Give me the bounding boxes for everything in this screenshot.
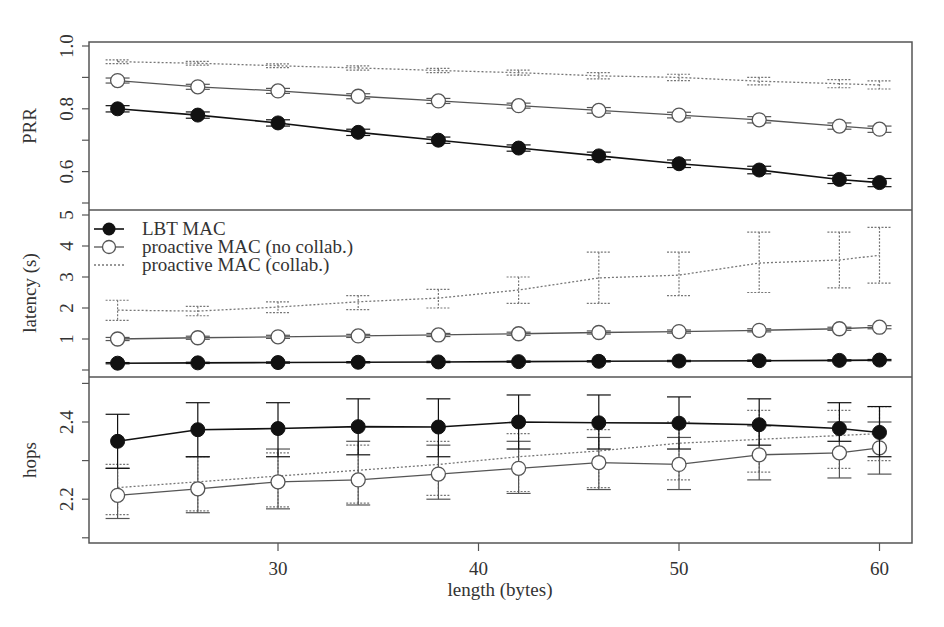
legend-label: proactive MAC (collab.): [142, 254, 329, 276]
series-lbt-mac: [106, 102, 892, 190]
marker-filled-circle: [832, 172, 846, 186]
marker-open-circle: [873, 320, 887, 334]
marker-filled-circle: [111, 434, 125, 448]
y-tick-label: 2: [56, 303, 77, 313]
x-tick-label: 60: [870, 558, 889, 579]
marker-filled-circle: [191, 423, 205, 437]
marker-open-circle: [752, 113, 766, 127]
marker-open-circle: [351, 473, 365, 487]
marker-open-circle: [752, 448, 766, 462]
marker-filled-circle: [111, 102, 125, 116]
marker-filled-circle: [351, 420, 365, 434]
marker-filled-circle: [512, 141, 526, 155]
marker-open-circle: [832, 119, 846, 133]
panel-hops: [106, 395, 892, 519]
x-tick-label: 40: [469, 558, 488, 579]
series-lbt-mac: [106, 353, 892, 370]
series-proactive-collab: [106, 60, 892, 89]
marker-filled-circle: [592, 149, 606, 163]
marker-open-circle: [191, 482, 205, 496]
y-axis-label-prr: PRR: [19, 108, 40, 144]
marker-open-circle: [351, 89, 365, 103]
legend-marker-open-circle: [103, 241, 116, 254]
x-tick-label: 30: [269, 558, 288, 579]
marker-open-circle: [672, 108, 686, 122]
x-tick-label: 50: [670, 558, 689, 579]
legend: LBT MACproactive MAC (no collab.)proacti…: [94, 218, 353, 276]
marker-open-circle: [111, 488, 125, 502]
marker-open-circle: [351, 329, 365, 343]
marker-filled-circle: [512, 355, 526, 369]
y-axis-label-latency: latency (s): [19, 253, 41, 333]
marker-filled-circle: [672, 157, 686, 171]
marker-open-circle: [271, 84, 285, 98]
chart-panels: [106, 60, 892, 519]
y-axis-label-hops: hops: [19, 442, 40, 478]
marker-filled-circle: [271, 422, 285, 436]
marker-filled-circle: [191, 356, 205, 370]
marker-filled-circle: [271, 356, 285, 370]
legend-marker-filled-circle: [103, 223, 116, 236]
marker-filled-circle: [752, 354, 766, 368]
marker-open-circle: [512, 327, 526, 341]
marker-open-circle: [592, 325, 606, 339]
x-axis-label: length (bytes): [447, 579, 552, 601]
series-proactive-no-collab: [106, 74, 892, 137]
marker-filled-circle: [752, 163, 766, 177]
marker-filled-circle: [351, 125, 365, 139]
panel-prr: [106, 60, 892, 190]
marker-open-circle: [191, 331, 205, 345]
y-tick-label: 1.0: [56, 34, 77, 58]
legend-entry-proactive-collab: proactive MAC (collab.): [94, 254, 329, 276]
y-tick-label: 2.4: [56, 410, 77, 434]
marker-open-circle: [512, 461, 526, 475]
y-tick-label: 0.8: [56, 97, 77, 121]
marker-filled-circle: [592, 354, 606, 368]
y-tick-label: 4: [56, 241, 77, 251]
marker-filled-circle: [111, 356, 125, 370]
series-proactive-no-collab: [106, 422, 892, 519]
marker-filled-circle: [431, 133, 445, 147]
marker-filled-circle: [873, 353, 887, 367]
marker-filled-circle: [873, 176, 887, 190]
series-line: [118, 62, 880, 85]
marker-open-circle: [832, 322, 846, 336]
marker-open-circle: [111, 332, 125, 346]
y-tick-label: 1: [56, 334, 77, 344]
marker-filled-circle: [351, 355, 365, 369]
marker-filled-circle: [752, 418, 766, 432]
series-lbt-mac: [106, 395, 892, 468]
marker-open-circle: [873, 122, 887, 136]
y-tick-label: 2.2: [56, 487, 77, 511]
marker-filled-circle: [191, 108, 205, 122]
marker-open-circle: [111, 74, 125, 88]
marker-open-circle: [271, 475, 285, 489]
marker-open-circle: [592, 456, 606, 470]
marker-filled-circle: [672, 416, 686, 430]
marker-open-circle: [191, 80, 205, 94]
marker-filled-circle: [873, 425, 887, 439]
marker-open-circle: [592, 103, 606, 117]
marker-filled-circle: [592, 416, 606, 430]
marker-filled-circle: [431, 420, 445, 434]
y-tick-label: 3: [56, 272, 77, 282]
chart: 0.60.81.0PRR12345latency (s)2.22.4hops30…: [0, 0, 944, 627]
marker-open-circle: [512, 99, 526, 113]
marker-filled-circle: [271, 116, 285, 130]
marker-filled-circle: [512, 415, 526, 429]
marker-open-circle: [832, 446, 846, 460]
marker-open-circle: [271, 330, 285, 344]
y-tick-label: 0.6: [56, 160, 77, 184]
marker-open-circle: [672, 325, 686, 339]
series-proactive-no-collab: [106, 320, 892, 346]
marker-open-circle: [752, 323, 766, 337]
marker-open-circle: [672, 457, 686, 471]
marker-open-circle: [431, 467, 445, 481]
marker-filled-circle: [672, 354, 686, 368]
marker-open-circle: [431, 94, 445, 108]
marker-open-circle: [431, 328, 445, 342]
y-tick-label: 5: [56, 210, 77, 220]
marker-filled-circle: [431, 355, 445, 369]
marker-filled-circle: [832, 353, 846, 367]
marker-filled-circle: [832, 422, 846, 436]
